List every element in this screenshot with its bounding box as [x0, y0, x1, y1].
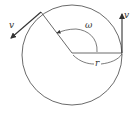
diagram-canvas — [0, 0, 130, 114]
label-radius: r — [95, 59, 99, 68]
label-angular-velocity: ω — [85, 21, 92, 30]
circular-motion-diagram: v v ω r — [0, 0, 130, 114]
circle-path — [22, 5, 122, 105]
label-velocity-left: v — [9, 21, 14, 30]
velocity-vector-left — [11, 12, 41, 38]
label-velocity-right: v — [124, 11, 129, 20]
radius-line-upper-left — [41, 12, 72, 53]
